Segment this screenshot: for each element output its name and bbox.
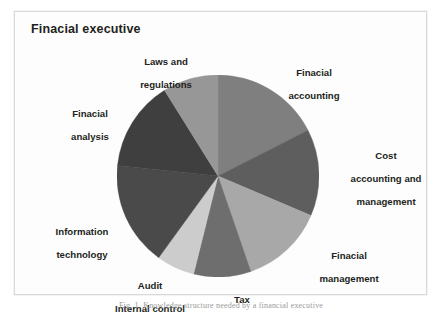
slice-label-information-technology: Information technology [36, 214, 128, 260]
slice-label-line: analysis [71, 131, 109, 142]
slice-label-finacial-management: Finacial management [301, 238, 397, 284]
slice-label-finacial-analysis: Finacial analysis [50, 96, 130, 142]
slice-label-laws-and-regulations: Laws and regulations [124, 44, 208, 90]
slice-label-line: Information [56, 226, 109, 237]
slice-label-line: Finacial [72, 108, 108, 119]
page-title: Finacial executive [31, 22, 141, 36]
slice-label-line: management [319, 273, 378, 284]
slice-label-line: technology [56, 249, 107, 260]
slice-label-finacial-accounting: Finacial accounting [272, 55, 356, 101]
slice-label-cost-accounting-and-management: Cost accounting and management [337, 138, 435, 208]
slice-label-line: accounting [288, 90, 339, 101]
slice-label-line: Audit [138, 280, 163, 291]
slice-label-line: Cost [375, 150, 396, 161]
slice-label-line: accounting and [351, 173, 422, 184]
pie-slice-group [117, 75, 319, 277]
slice-label-line: Finacial [331, 250, 367, 261]
pie-chart [117, 75, 319, 277]
slice-label-line: regulations [140, 79, 192, 90]
slice-label-line: management [356, 196, 415, 207]
figure-caption: Fig. 1. Knowledge structure needed by a … [0, 301, 442, 310]
slice-label-line: Finacial [296, 67, 332, 78]
figure-container: Finacial executive Laws and regulations … [0, 0, 442, 324]
slice-label-line: Laws and [144, 56, 188, 67]
pie-chart-svg [117, 75, 319, 277]
